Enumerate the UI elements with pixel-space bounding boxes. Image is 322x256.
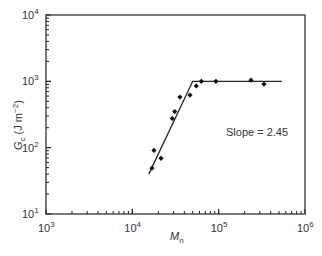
data-point-diamond bbox=[177, 94, 182, 99]
data-point-diamond bbox=[158, 156, 163, 161]
x-tick-label: 105 bbox=[211, 220, 228, 234]
x-axis-label: Mn bbox=[170, 230, 184, 245]
slope-annotation: Slope = 2.45 bbox=[226, 126, 288, 138]
data-point-diamond bbox=[199, 79, 204, 84]
x-tick-label: 106 bbox=[297, 220, 314, 234]
y-tick-label: 101 bbox=[22, 206, 39, 220]
data-point-diamond bbox=[213, 79, 218, 84]
y-tick-label: 103 bbox=[22, 73, 39, 87]
x-tick-label: 103 bbox=[38, 220, 55, 234]
data-points bbox=[149, 78, 266, 171]
data-point-diamond bbox=[151, 148, 156, 153]
plot-frame bbox=[46, 15, 305, 214]
x-label-sub: n bbox=[179, 236, 183, 245]
y-label-close: ) bbox=[12, 100, 24, 104]
axis-ticks bbox=[46, 15, 305, 214]
plot-border bbox=[46, 15, 305, 214]
x-tick-label: 104 bbox=[124, 220, 141, 234]
data-point-diamond bbox=[261, 81, 266, 86]
data-point-diamond bbox=[248, 78, 253, 83]
y-tick-label: 104 bbox=[22, 7, 39, 21]
tick-labels: 103104105106101102103104 bbox=[22, 7, 314, 234]
y-label-units: (J m bbox=[12, 113, 24, 137]
data-point-diamond bbox=[172, 109, 177, 114]
data-point-diamond bbox=[187, 93, 192, 98]
log-log-chart: 103104105106101102103104 Slope = 2.45 Mn… bbox=[0, 0, 322, 256]
data-point-diamond bbox=[194, 83, 199, 88]
